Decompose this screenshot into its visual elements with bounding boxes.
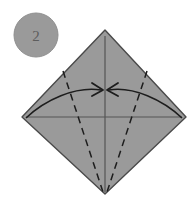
step-number-badge: 2 — [14, 13, 58, 57]
step-number-label: 2 — [32, 28, 40, 44]
origami-step-diagram: 2 — [0, 0, 196, 197]
